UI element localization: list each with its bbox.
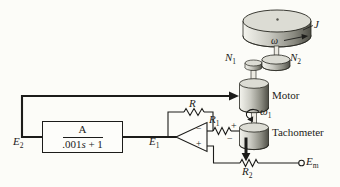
label-tachometer: Tachometer — [272, 127, 324, 138]
resistor-r-zigzag — [184, 109, 204, 116]
label-n1: N1 — [225, 52, 236, 63]
block-numerator: A — [79, 124, 87, 135]
speed-control-system-diagram: A .001s + 1 E2 E1 R R1 + − R2 Em N1 N2 J… — [0, 0, 340, 187]
label-inertia-j: J — [314, 19, 319, 30]
label-omega: ω — [271, 36, 278, 46]
gear-n2 — [262, 55, 290, 71]
opamp-minus-sign: − — [196, 125, 201, 135]
opamp-plus-sign: + — [196, 140, 201, 150]
label-motor: Motor — [272, 90, 300, 101]
tach-minus-sign: − — [227, 134, 233, 144]
label-n2: N2 — [290, 52, 301, 63]
label-r2: R2 — [242, 166, 252, 177]
label-feedback-resistor: R — [189, 98, 196, 109]
label-r1: R1 — [209, 114, 219, 125]
tachometer-cylinder — [240, 123, 269, 150]
motor-drive-arrowhead-icon — [229, 92, 239, 101]
label-e2: E2 — [13, 136, 23, 147]
amplifier-block: A .001s + 1 — [42, 121, 123, 153]
tach-plus-sign: + — [231, 121, 237, 131]
opamp-triangle-icon — [176, 123, 207, 152]
label-omega1: ω1 — [260, 106, 272, 117]
gear-n1 — [245, 60, 262, 71]
em-terminal-icon — [299, 160, 305, 166]
block-denominator: .001s + 1 — [62, 139, 103, 150]
label-e1: E1 — [149, 136, 159, 147]
label-em: Em — [306, 156, 319, 167]
